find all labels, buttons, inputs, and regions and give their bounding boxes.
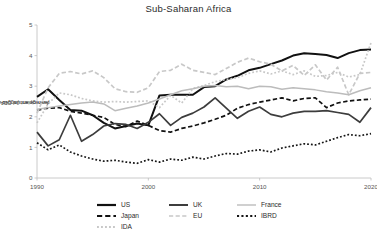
x-tick-label: 2020 bbox=[364, 183, 377, 190]
legend-label: EU bbox=[193, 212, 202, 219]
x-tick-label: 1990 bbox=[30, 183, 44, 190]
x-tick-label: 2010 bbox=[253, 183, 267, 190]
legend-label: IDA bbox=[121, 223, 132, 230]
series-lines bbox=[37, 43, 371, 164]
legend-swatch-us-icon bbox=[97, 201, 116, 209]
legend-item-japan[interactable]: Japan bbox=[97, 212, 169, 220]
x-tick-label: 2000 bbox=[141, 183, 155, 190]
y-tick-label: 5 bbox=[29, 21, 33, 28]
legend-row: JapanEUIBRD bbox=[97, 210, 327, 221]
legend-item-eu[interactable]: EU bbox=[169, 212, 237, 220]
legend-row: IDA bbox=[97, 221, 327, 232]
series-line-us bbox=[37, 49, 371, 128]
series-line-uk bbox=[37, 98, 371, 146]
legend-label: UK bbox=[193, 201, 202, 208]
y-tick-label: 4 bbox=[29, 52, 33, 59]
legend-row: USUKFrance bbox=[97, 199, 327, 210]
legend-swatch-france-icon bbox=[237, 201, 256, 209]
legend-swatch-ibrd-icon bbox=[237, 212, 256, 220]
legend-item-us[interactable]: US bbox=[97, 201, 169, 209]
legend-label: IBRD bbox=[261, 212, 277, 219]
legend-swatch-ida-icon bbox=[97, 223, 116, 231]
legend-label: France bbox=[261, 201, 282, 208]
legend-swatch-uk-icon bbox=[169, 201, 188, 209]
y-tick-label: 0 bbox=[29, 174, 33, 181]
y-tick-label: 2 bbox=[29, 113, 33, 120]
y-axis: 012345 bbox=[29, 21, 37, 181]
chart-figure: Sub-Saharan Africa Average annual ODA co… bbox=[0, 0, 377, 236]
legend-item-ibrd[interactable]: IBRD bbox=[237, 212, 317, 220]
legend-label: Japan bbox=[121, 212, 139, 219]
chart-legend: USUKFranceJapanEUIBRDIDA bbox=[97, 199, 327, 232]
legend-swatch-eu-icon bbox=[169, 212, 188, 220]
y-tick-label: 1 bbox=[29, 144, 33, 151]
legend-swatch-japan-icon bbox=[97, 212, 116, 220]
y-tick-label: 3 bbox=[29, 82, 33, 89]
legend-label: US bbox=[121, 201, 130, 208]
x-axis: 1990200020102020 bbox=[30, 178, 377, 190]
legend-item-ida[interactable]: IDA bbox=[97, 223, 169, 231]
legend-item-uk[interactable]: UK bbox=[169, 201, 237, 209]
legend-item-france[interactable]: France bbox=[237, 201, 317, 209]
